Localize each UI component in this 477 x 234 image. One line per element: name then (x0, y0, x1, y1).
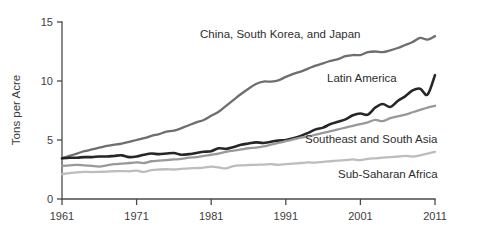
x-tick-label: 1961 (50, 210, 74, 222)
y-tick-label: 0 (47, 193, 53, 205)
x-tick-label: 2001 (348, 210, 372, 222)
chart-figure: 051015196119711981199120012011Tons per A… (0, 0, 477, 234)
chart-text-labels: 051015196119711981199120012011Tons per A… (10, 16, 447, 222)
series-label-1: China, South Korea, and Japan (200, 28, 360, 40)
y-tick-label: 15 (41, 16, 53, 28)
y-axis-title: Tons per Acre (10, 75, 22, 145)
x-tick-label: 1971 (124, 210, 148, 222)
series-label-4: Sub-Saharan Africa (338, 168, 438, 180)
x-tick-label: 2011 (423, 210, 447, 222)
chart-series-group (62, 36, 435, 174)
y-tick-label: 10 (41, 75, 53, 87)
line-chart-canvas: 051015196119711981199120012011Tons per A… (0, 0, 477, 234)
series-label-2: Latin America (327, 72, 397, 84)
x-tick-label: 1991 (274, 210, 298, 222)
y-tick-label: 5 (47, 134, 53, 146)
x-tick-label: 1981 (199, 210, 223, 222)
series-label-3: Southeast and South Asia (305, 133, 438, 145)
